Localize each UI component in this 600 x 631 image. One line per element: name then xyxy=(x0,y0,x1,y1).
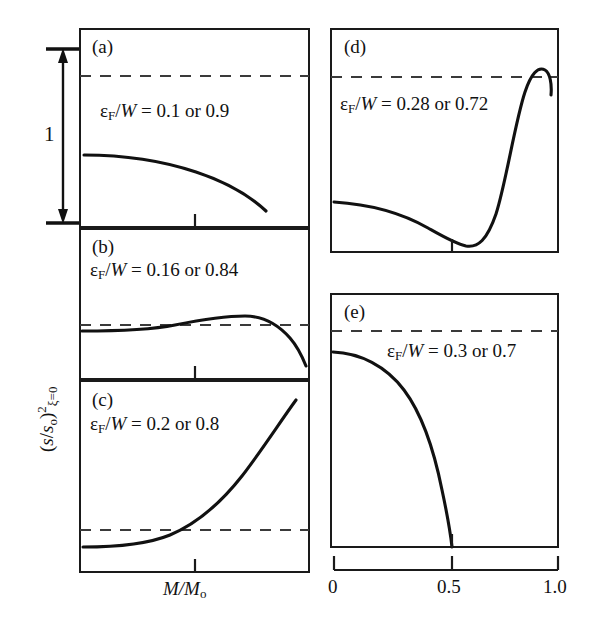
x-tick-10: 1.0 xyxy=(543,576,567,598)
x-tick-05: 0.5 xyxy=(437,576,461,598)
x-tick-0: 0 xyxy=(328,576,338,598)
right-x-axis xyxy=(0,0,600,631)
figure-root: 1 (s/so)2ξ=0 (a) εF/W = 0.1 or 0.9 (b) ε… xyxy=(0,0,600,631)
